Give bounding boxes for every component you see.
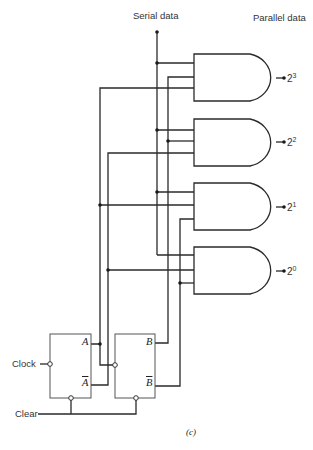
clock-label: Clock [12,358,36,369]
output-wires [276,76,286,273]
and-gate-2 [194,119,271,166]
and-gate-1 [194,183,271,230]
output-2-2: 22 [287,136,296,148]
ff-b-qbar-label: B [146,377,152,388]
serial-data-label: Serial data [133,10,178,21]
and-gate-0 [194,247,271,294]
clear-label: Clear [15,408,38,419]
ff-b-q-label: B [146,336,152,347]
circuit-diagram [0,0,313,450]
output-2-0: 20 [287,265,296,277]
ff-a-q-label: A [82,336,88,347]
output-2-1: 21 [287,201,296,213]
b-wire [154,77,194,343]
ff-a-qbar-label: A [82,377,88,388]
b-bar-wire [154,219,194,386]
and-gate-3 [194,54,271,101]
output-2-3: 23 [287,72,296,84]
serial-data-wire [155,30,194,255]
figure-caption: (c) [186,427,196,437]
parallel-data-label: Parallel data [253,12,306,23]
